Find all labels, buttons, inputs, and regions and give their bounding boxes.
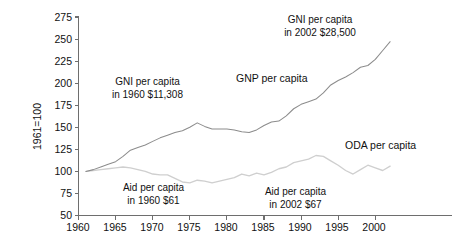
series-line-oda-per-capita xyxy=(86,156,390,183)
x-tick-label-1980: 1980 xyxy=(206,221,246,233)
y-tick-label-125: 125 xyxy=(38,143,72,155)
x-tick-label-1970: 1970 xyxy=(132,221,172,233)
annotation-aid-1960-line2: in 1960 $61 xyxy=(96,195,211,208)
y-axis-ticks xyxy=(75,17,79,216)
x-tick-label-1990: 1990 xyxy=(280,221,320,233)
annotation-gni-1960: GNI per capita in 1960 $11,308 xyxy=(85,76,210,101)
y-tick-label-175: 175 xyxy=(38,99,72,111)
y-tick-label-225: 225 xyxy=(38,55,72,67)
y-tick-label-150: 150 xyxy=(38,121,72,133)
y-tick-label-250: 250 xyxy=(38,33,72,45)
series-label-oda-per-capita: ODA per capita xyxy=(345,139,455,152)
annotation-aid-1960-line1: Aid per capita xyxy=(96,182,211,195)
x-tick-label-1965: 1965 xyxy=(95,221,135,233)
y-tick-label-200: 200 xyxy=(38,77,72,89)
series-label-gnp-per-capita: GNP per capita xyxy=(236,72,346,85)
x-tick-label-2000: 2000 xyxy=(354,221,394,233)
y-tick-label-75: 75 xyxy=(38,187,72,199)
y-tick-label-275: 275 xyxy=(38,11,72,23)
series-line-gnp-per-capita xyxy=(86,42,390,172)
chart-container: 1961=100 275 250 225 200 175 150 125 100… xyxy=(0,0,470,248)
x-tick-label-1985: 1985 xyxy=(243,221,283,233)
x-tick-label-1975: 1975 xyxy=(169,221,209,233)
annotation-gni-2002-line1: GNI per capita xyxy=(255,14,385,27)
annotation-aid-2002: Aid per capita in 2002 $67 xyxy=(238,186,353,211)
annotation-gni-1960-line1: GNI per capita xyxy=(85,76,210,89)
y-tick-label-100: 100 xyxy=(38,165,72,177)
annotation-gni-2002: GNI per capita in 2002 $28,500 xyxy=(255,14,385,39)
annotation-gni-2002-line2: in 2002 $28,500 xyxy=(255,27,385,40)
annotation-aid-2002-line1: Aid per capita xyxy=(238,186,353,199)
annotation-aid-2002-line2: in 2002 $67 xyxy=(238,199,353,212)
annotation-aid-1960: Aid per capita in 1960 $61 xyxy=(96,182,211,207)
series-group xyxy=(86,42,390,183)
x-tick-label-1960: 1960 xyxy=(58,221,98,233)
x-axis-ticks xyxy=(79,216,376,220)
annotation-gni-1960-line2: in 1960 $11,308 xyxy=(85,89,210,102)
x-tick-label-1995: 1995 xyxy=(317,221,357,233)
y-tick-label-50: 50 xyxy=(38,209,72,221)
